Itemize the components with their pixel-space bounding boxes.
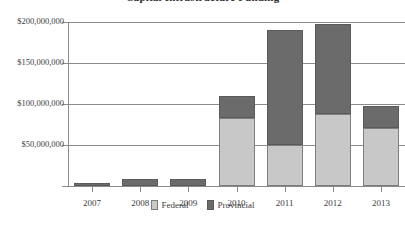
x-axis-tick (188, 186, 189, 192)
x-axis-tick (285, 186, 286, 192)
legend-swatch-provincial-icon (207, 200, 214, 210)
legend-item-provincial: Provincial (207, 200, 255, 210)
bar-segment-federal[interactable] (267, 145, 303, 186)
y-axis-tick-label: $200,000,000 (0, 16, 64, 26)
bar-segment-provincial[interactable] (267, 30, 303, 145)
y-axis-tick-label: $50,000,000 (0, 139, 64, 149)
y-axis-tick-label: $150,000,000 (0, 57, 64, 67)
bar-segment-provincial[interactable] (363, 106, 399, 127)
bar-segment-federal[interactable] (315, 114, 351, 186)
x-axis-tick (140, 186, 141, 192)
chart-container: Capital Infrastructure Funding $50,000,0… (0, 0, 405, 225)
bar-segment-provincial[interactable] (219, 96, 255, 118)
bar-segment-provincial[interactable] (315, 24, 351, 113)
y-axis-tick-label: $100,000,000 (0, 98, 64, 108)
legend-item-federal: Federal (151, 200, 189, 210)
legend-swatch-federal-icon (151, 200, 158, 210)
bar-segment-federal[interactable] (363, 128, 399, 186)
legend-label-provincial: Provincial (218, 200, 255, 210)
plot-area: $50,000,000$100,000,000$150,000,000$200,… (68, 22, 405, 186)
chart-title: Capital Infrastructure Funding (0, 0, 405, 3)
bar-segment-federal[interactable] (219, 118, 255, 186)
x-axis-line (62, 186, 405, 187)
x-axis-tick (381, 186, 382, 192)
x-axis-tick (333, 186, 334, 192)
x-axis-tick (92, 186, 93, 192)
chart-legend: Federal Provincial (0, 200, 405, 210)
bar-series (68, 22, 405, 186)
legend-label-federal: Federal (162, 200, 189, 210)
x-axis-tick (237, 186, 238, 192)
